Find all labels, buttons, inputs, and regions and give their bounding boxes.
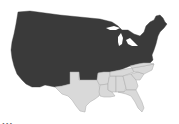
state-florida [118,90,144,112]
region-north-west [11,11,167,87]
us-map [0,0,179,124]
caption-text: ... [2,117,13,124]
state-mississippi [108,76,116,92]
